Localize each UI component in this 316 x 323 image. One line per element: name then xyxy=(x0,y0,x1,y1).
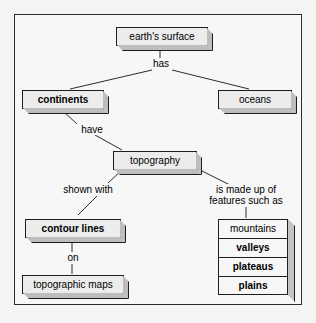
node-topographic-maps[interactable]: topographic maps xyxy=(22,275,124,294)
link-label-has: has xyxy=(148,58,174,69)
node-contour-lines[interactable]: contour lines xyxy=(25,219,121,238)
node-continents-label: continents xyxy=(38,95,89,105)
link-label-have: have xyxy=(76,124,108,135)
stack-item-mountains[interactable]: mountains xyxy=(218,219,288,238)
stack-item-valleys-label: valleys xyxy=(236,243,269,253)
link-label-shown-with: shown with xyxy=(56,184,120,195)
node-earths-surface[interactable]: earth's surface xyxy=(116,27,208,46)
node-contour-lines-label: contour lines xyxy=(42,224,105,234)
link-label-made-up-of-line1: is made up of xyxy=(197,184,295,195)
box-3d-bottom-face xyxy=(23,293,129,299)
node-oceans-label: oceans xyxy=(239,95,271,105)
link-label-made-up-of: is made up of features such as xyxy=(196,184,296,206)
link-label-on: on xyxy=(62,252,84,263)
stack-item-valleys[interactable]: valleys xyxy=(218,238,288,257)
link-shownwith-contour xyxy=(78,196,97,215)
node-continents[interactable]: continents xyxy=(22,90,104,109)
link-has-oceans xyxy=(172,70,249,89)
stack-item-plateaus[interactable]: plateaus xyxy=(218,257,288,276)
concept-map-page: earth's surface continents oceans topogr… xyxy=(0,0,316,323)
link-label-made-up-of-line2: features such as xyxy=(197,195,295,206)
node-topography-label: topography xyxy=(130,156,180,166)
stack-item-mountains-label: mountains xyxy=(230,224,276,234)
node-oceans[interactable]: oceans xyxy=(218,90,292,109)
link-has-continents xyxy=(70,70,152,89)
stack-item-plains[interactable]: plains xyxy=(218,276,288,295)
stack-item-plains-label: plains xyxy=(239,281,268,291)
stack-item-plateaus-label: plateaus xyxy=(233,262,274,272)
node-topographic-maps-label: topographic maps xyxy=(33,280,113,290)
node-earths-surface-label: earth's surface xyxy=(129,32,194,42)
box-3d-bottom-face xyxy=(23,108,109,114)
box-3d-bottom-face xyxy=(26,237,126,243)
feature-stack: mountains valleys plateaus plains xyxy=(218,219,288,295)
stack-3d-right-face xyxy=(288,219,295,302)
box-3d-bottom-face xyxy=(114,169,202,175)
box-3d-bottom-face xyxy=(117,45,213,51)
link-have-topography xyxy=(95,135,122,150)
box-3d-bottom-face xyxy=(219,108,297,114)
node-topography[interactable]: topography xyxy=(113,151,197,170)
